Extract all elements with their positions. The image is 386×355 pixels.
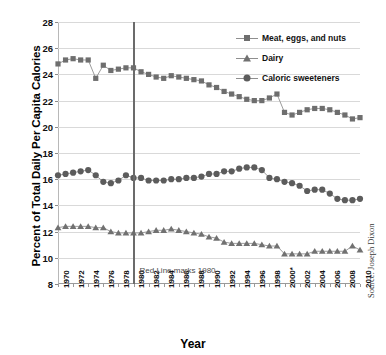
data-point xyxy=(214,85,219,90)
data-point xyxy=(213,171,219,177)
data-point xyxy=(229,168,235,174)
data-point xyxy=(357,247,364,253)
data-point xyxy=(206,82,211,87)
legend-swatch-circle-icon xyxy=(236,73,258,83)
legend-label-sweeteners: Caloric sweeteners xyxy=(262,73,339,83)
data-point xyxy=(349,243,356,249)
data-point xyxy=(86,57,91,62)
data-point xyxy=(252,98,257,103)
data-point xyxy=(297,110,302,115)
data-point xyxy=(342,197,348,203)
data-point xyxy=(259,98,264,103)
series-circle xyxy=(55,164,363,203)
data-point xyxy=(71,56,76,61)
data-point xyxy=(161,76,166,81)
data-point xyxy=(199,78,204,83)
legend-swatch-triangle-icon xyxy=(236,53,258,63)
data-point xyxy=(78,168,84,174)
data-point xyxy=(116,67,121,72)
data-point xyxy=(281,179,287,185)
data-point xyxy=(244,164,250,170)
legend-label-dairy: Dairy xyxy=(262,53,283,63)
data-point xyxy=(78,57,83,62)
data-point xyxy=(244,97,249,102)
data-point xyxy=(221,168,227,174)
data-point xyxy=(334,196,340,202)
data-point xyxy=(93,76,98,81)
data-point xyxy=(312,106,317,111)
data-point xyxy=(168,176,174,182)
data-point xyxy=(191,77,196,82)
red-line-annotation-label: Red Line marks 1980 xyxy=(140,266,216,275)
data-point xyxy=(236,166,242,172)
data-point xyxy=(183,175,189,181)
data-point xyxy=(62,171,68,177)
data-point xyxy=(123,172,129,178)
data-point xyxy=(289,180,295,186)
data-point xyxy=(146,177,152,183)
data-point xyxy=(168,226,175,232)
data-point xyxy=(138,69,143,74)
vertical-marker-line-1980 xyxy=(133,22,135,284)
data-point xyxy=(297,183,303,189)
data-point xyxy=(101,63,106,68)
data-point xyxy=(100,179,106,185)
data-point xyxy=(274,91,279,96)
legend-item-dairy: Dairy xyxy=(236,50,346,66)
data-point xyxy=(107,228,114,234)
data-point xyxy=(108,68,113,73)
data-point xyxy=(282,110,287,115)
series-triangle xyxy=(55,223,364,256)
data-point xyxy=(304,188,310,194)
data-point xyxy=(176,74,181,79)
data-point xyxy=(319,187,325,193)
data-point xyxy=(191,175,197,181)
legend-item-sweeteners: Caloric sweeteners xyxy=(236,70,346,86)
data-point xyxy=(93,172,99,178)
data-point xyxy=(259,167,265,173)
chart-container: Percent of Total Daily Per Capita Calori… xyxy=(0,0,386,355)
data-point xyxy=(154,74,159,79)
data-point xyxy=(115,177,121,183)
data-point xyxy=(153,177,159,183)
data-point xyxy=(237,94,242,99)
data-point xyxy=(357,115,362,120)
data-point xyxy=(349,197,355,203)
data-point xyxy=(70,170,76,176)
data-point xyxy=(55,172,61,178)
data-point xyxy=(146,72,151,77)
data-point xyxy=(251,164,257,170)
data-point xyxy=(229,91,234,96)
data-point xyxy=(350,116,355,121)
data-point xyxy=(312,187,318,193)
data-point xyxy=(184,76,189,81)
data-point xyxy=(85,167,91,173)
source-note: Source: Joseph Dixon xyxy=(366,188,376,298)
data-point xyxy=(266,175,272,181)
data-point xyxy=(55,61,60,66)
data-point xyxy=(222,89,227,94)
data-point xyxy=(327,191,333,197)
data-point xyxy=(267,95,272,100)
data-point xyxy=(357,196,363,202)
x-axis-title: Year xyxy=(0,337,386,351)
data-point xyxy=(108,180,114,186)
data-point xyxy=(169,73,174,78)
data-point xyxy=(176,176,182,182)
data-point xyxy=(221,239,228,245)
data-point xyxy=(198,173,204,179)
legend-label-meat: Meat, eggs, and nuts xyxy=(262,33,346,43)
data-point xyxy=(161,177,167,183)
data-point xyxy=(342,112,347,117)
data-point xyxy=(335,110,340,115)
legend-item-meat: Meat, eggs, and nuts xyxy=(236,30,346,46)
data-point xyxy=(123,65,128,70)
data-point xyxy=(320,106,325,111)
data-point xyxy=(63,57,68,62)
data-point xyxy=(206,171,212,177)
data-point xyxy=(289,112,294,117)
data-point xyxy=(274,176,280,182)
legend-swatch-square-icon xyxy=(236,33,258,43)
chart-legend: Meat, eggs, and nuts Dairy Caloric sweet… xyxy=(236,30,346,90)
data-point xyxy=(305,107,310,112)
